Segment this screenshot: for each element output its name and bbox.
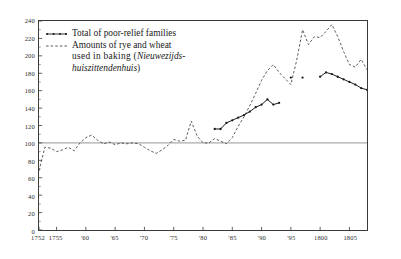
x-axis-tick-label: 1755 bbox=[49, 234, 63, 241]
data-point-marker bbox=[354, 83, 356, 85]
legend-item-poor-relief: Total of poor-relief families bbox=[46, 28, 276, 40]
solid-marker-line-icon bbox=[46, 32, 67, 36]
x-axis-ticks-group bbox=[39, 227, 349, 230]
chart-figure: 020406080100120140160180200220240 175217… bbox=[0, 0, 401, 259]
data-point-marker bbox=[249, 110, 251, 112]
data-point-marker bbox=[325, 71, 327, 73]
y-axis-tick-label: 100 bbox=[25, 140, 35, 147]
data-point-marker bbox=[214, 128, 216, 130]
data-point-marker bbox=[337, 76, 339, 78]
y-axis-tick-label: 140 bbox=[25, 104, 35, 111]
y-axis-tick-label: 220 bbox=[25, 34, 35, 41]
isolated-data-point-marker bbox=[290, 76, 292, 78]
y-axis-tick-label: 180 bbox=[25, 69, 35, 76]
legend-label-rye-wheat-line1: Amounts of rye and wheat bbox=[46, 40, 276, 52]
x-axis-tick-label: '90 bbox=[258, 234, 266, 241]
y-axis-tick-labels: 020406080100120140160180200220240 bbox=[0, 20, 35, 231]
data-point-marker bbox=[272, 103, 274, 105]
y-axis-tick-label: 60 bbox=[28, 175, 35, 182]
x-axis-tick-label: '70 bbox=[140, 234, 148, 241]
x-axis-tick-label: '60 bbox=[81, 234, 89, 241]
legend-item-rye-wheat: Amounts of rye and wheat used in baking … bbox=[46, 40, 276, 75]
x-axis-tick-label: '85 bbox=[228, 234, 236, 241]
data-point-marker bbox=[331, 73, 333, 75]
solid-series-path bbox=[320, 72, 367, 89]
data-point-marker bbox=[319, 76, 321, 78]
data-point-marker bbox=[237, 117, 239, 119]
data-point-marker bbox=[260, 103, 262, 105]
y-axis-tick-label: 200 bbox=[25, 52, 35, 59]
data-point-marker bbox=[225, 122, 227, 124]
x-axis-tick-label: '95 bbox=[287, 234, 295, 241]
x-axis-tick-label: 1805 bbox=[343, 234, 357, 241]
data-point-marker bbox=[360, 87, 362, 89]
legend-line3-italic: huiszittendenhuis bbox=[72, 63, 137, 73]
data-point-marker bbox=[278, 102, 280, 104]
data-point-marker bbox=[255, 106, 257, 108]
isolated-data-point-marker bbox=[301, 76, 303, 78]
y-axis-tick-label: 120 bbox=[25, 122, 35, 129]
x-axis-tick-label: '65 bbox=[110, 234, 118, 241]
chart-legend: Total of poor-relief families Amounts of… bbox=[46, 28, 276, 74]
x-axis-tick-label: '80 bbox=[199, 234, 207, 241]
data-point-marker bbox=[342, 78, 344, 80]
legend-line2-italic: Nieuwezijds- bbox=[137, 51, 185, 61]
y-axis-tick-label: 40 bbox=[28, 192, 35, 199]
data-point-marker bbox=[348, 81, 350, 83]
y-axis-tick-label: 160 bbox=[25, 87, 35, 94]
y-axis-tick-label: 20 bbox=[28, 210, 35, 217]
series-poor-relief-families bbox=[214, 71, 367, 130]
legend-line2-plain: used in baking ( bbox=[72, 51, 137, 61]
data-point-marker bbox=[219, 128, 221, 130]
solid-series-path bbox=[215, 99, 279, 129]
data-point-marker bbox=[243, 114, 245, 116]
x-axis-tick-labels: 17521755'60'65'70'75'80'85'90'9518001805 bbox=[38, 234, 368, 248]
data-point-marker bbox=[231, 119, 233, 121]
legend-label-rye-wheat-line2: used in baking (Nieuwezijds- bbox=[46, 51, 276, 63]
x-axis-tick-label: '75 bbox=[169, 234, 177, 241]
dashed-line-icon bbox=[46, 44, 67, 48]
y-axis-ticks-group bbox=[39, 21, 42, 230]
legend-label-poor-relief: Total of poor-relief families bbox=[46, 28, 276, 40]
y-axis-tick-label: 80 bbox=[28, 157, 35, 164]
x-axis-tick-label: 1800 bbox=[314, 234, 328, 241]
legend-label-rye-wheat-line3: huiszittendenhuis) bbox=[46, 63, 276, 75]
x-axis-tick-label: 1752 bbox=[31, 234, 45, 241]
legend-line3-plain: ) bbox=[137, 63, 140, 73]
y-axis-tick-label: 240 bbox=[25, 17, 35, 24]
data-point-marker bbox=[266, 98, 268, 100]
